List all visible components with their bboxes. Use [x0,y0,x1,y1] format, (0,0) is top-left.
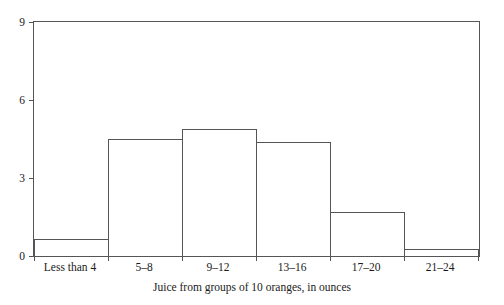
y-tick-3: 3 [29,178,34,179]
histogram-chart: 0 3 6 9 Less than 4 5–8 9–12 13–16 17–20… [0,0,504,305]
x-tick-4 [330,256,331,261]
x-tick-5 [404,256,405,261]
y-tick-label-9: 9 [19,17,25,29]
x-tick-1 [108,256,109,261]
bar-13-16 [256,142,331,256]
y-tick-9: 9 [29,22,34,23]
x-tick-label-17-20: 17–20 [352,262,381,274]
bar-9-12 [182,129,257,256]
x-tick-3 [256,256,257,261]
y-tick-6: 6 [29,100,34,101]
plot-area: 0 3 6 9 [33,21,480,257]
x-tick-0 [34,256,35,261]
x-tick-2 [182,256,183,261]
x-tick-6 [478,256,479,261]
y-tick-label-3: 3 [19,173,25,185]
x-tick-label-5-8: 5–8 [135,262,152,274]
bar-less-than-4 [34,239,109,256]
x-tick-label-21-24: 21–24 [426,262,455,274]
y-tick-label-6: 6 [19,95,25,107]
bar-17-20 [330,212,405,256]
x-tick-label-less-than-4: Less than 4 [44,262,96,274]
bar-21-24 [404,249,479,256]
bar-5-8 [108,139,183,256]
y-tick-label-0: 0 [19,251,25,263]
x-tick-label-9-12: 9–12 [207,262,230,274]
x-tick-label-13-16: 13–16 [278,262,307,274]
x-axis-title: Juice from groups of 10 oranges, in ounc… [0,282,504,294]
